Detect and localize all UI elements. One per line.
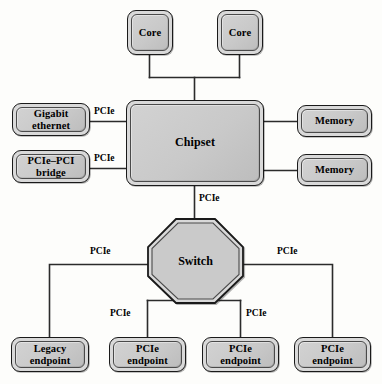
node-legacy-endpoint[interactable]: Legacy endpoint xyxy=(11,337,89,372)
node-gigabit-ethernet[interactable]: Gigabit ethernet xyxy=(12,103,90,136)
node-switch[interactable]: Switch xyxy=(148,219,243,303)
node-pcie-endpoint-2-label: PCIe endpoint xyxy=(206,341,275,368)
edge-label-switch-to-endpoint3: PCIe xyxy=(277,246,298,256)
gigabit-ethernet-line1: Gigabit xyxy=(34,108,69,119)
edge-label-ethernet-to-chipset: PCIe xyxy=(94,106,115,116)
node-pcie-endpoint-3[interactable]: PCIe endpoint xyxy=(294,337,371,372)
wire-switch-to-legacy xyxy=(50,265,149,338)
node-chipset[interactable]: Chipset xyxy=(126,100,264,186)
legacy-endpoint-line2: endpoint xyxy=(30,355,70,366)
pcie-endpoint-1-line1: PCIe xyxy=(136,343,159,354)
edge-label-switch-to-endpoint1: PCIe xyxy=(110,308,131,318)
node-legacy-endpoint-label: Legacy endpoint xyxy=(15,341,85,368)
node-core-2-label: Core xyxy=(221,14,259,51)
edge-label-chipset-to-switch: PCIe xyxy=(199,193,220,203)
node-memory-2-label: Memory xyxy=(301,158,368,182)
node-pcie-pci-bridge-label: PCIe–PCI bridge xyxy=(16,154,86,179)
node-memory-2[interactable]: Memory xyxy=(297,154,372,186)
node-chipset-label: Chipset xyxy=(130,104,260,182)
node-pcie-endpoint-3-label: PCIe endpoint xyxy=(298,341,367,368)
node-core-2[interactable]: Core xyxy=(217,10,263,55)
pcie-pci-bridge-line1: PCIe–PCI xyxy=(28,155,75,166)
node-switch-label: Switch xyxy=(148,219,243,303)
node-memory-1-label: Memory xyxy=(301,109,368,133)
gigabit-ethernet-line2: ethernet xyxy=(32,120,70,131)
pcie-endpoint-1-line2: endpoint xyxy=(127,355,167,366)
pcie-endpoint-3-line1: PCIe xyxy=(321,343,344,354)
connection-lines xyxy=(0,0,382,384)
node-pcie-endpoint-1[interactable]: PCIe endpoint xyxy=(109,337,186,372)
node-pcie-pci-bridge[interactable]: PCIe–PCI bridge xyxy=(12,150,90,183)
node-gigabit-ethernet-label: Gigabit ethernet xyxy=(16,107,86,132)
node-pcie-endpoint-2[interactable]: PCIe endpoint xyxy=(202,337,279,372)
diagram-canvas: Core Core Chipset Gigabit ethernet PCIe–… xyxy=(0,0,382,384)
pcie-endpoint-2-line2: endpoint xyxy=(220,355,260,366)
node-memory-1[interactable]: Memory xyxy=(297,105,372,137)
edge-label-bridge-to-chipset: PCIe xyxy=(94,153,115,163)
pcie-endpoint-3-line2: endpoint xyxy=(312,355,352,366)
wire-switch-to-endpoint3 xyxy=(243,265,333,338)
edge-label-switch-to-endpoint2: PCIe xyxy=(246,308,267,318)
legacy-endpoint-line1: Legacy xyxy=(34,343,67,354)
node-core-1-label: Core xyxy=(131,14,169,51)
pcie-pci-bridge-line2: bridge xyxy=(36,167,66,178)
edge-label-switch-to-legacy: PCIe xyxy=(90,246,111,256)
node-core-1[interactable]: Core xyxy=(127,10,173,55)
pcie-endpoint-2-line1: PCIe xyxy=(229,343,252,354)
node-pcie-endpoint-1-label: PCIe endpoint xyxy=(113,341,182,368)
